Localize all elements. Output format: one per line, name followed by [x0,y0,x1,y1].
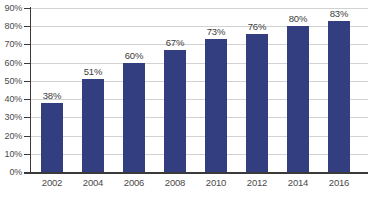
x-tick-label-2006: 2006 [114,178,154,188]
bar-chart: 90% 80% 70% 60% 50% 40% 30% 20% 10% 0% 3… [0,0,375,197]
bar-2006[interactable] [123,63,145,172]
x-tick-label-2010: 2010 [196,178,236,188]
bar-value-label-2012: 76% [237,22,277,32]
x-tick-label-2012: 2012 [237,178,277,188]
x-tick-label-2016: 2016 [319,178,359,188]
bars-layer: 38% 2002 51% 2004 60% 2006 67% 2008 73% … [0,0,375,197]
bar-2012[interactable] [246,34,268,172]
x-tick-label-2002: 2002 [32,178,72,188]
bar-value-label-2006: 60% [114,51,154,61]
bar-value-label-2010: 73% [196,27,236,37]
bar-2010[interactable] [205,39,227,172]
bar-value-label-2004: 51% [73,67,113,77]
x-tick-label-2014: 2014 [278,178,318,188]
bar-value-label-2002: 38% [32,91,72,101]
x-tick-label-2004: 2004 [73,178,113,188]
bar-value-label-2008: 67% [155,38,195,48]
bar-2008[interactable] [164,50,186,172]
bar-2004[interactable] [82,79,104,172]
x-tick-label-2008: 2008 [155,178,195,188]
bar-2016[interactable] [328,21,350,172]
bar-value-label-2014: 80% [278,14,318,24]
bar-2014[interactable] [287,26,309,172]
bar-2002[interactable] [41,103,63,172]
bar-value-label-2016: 83% [319,9,359,19]
